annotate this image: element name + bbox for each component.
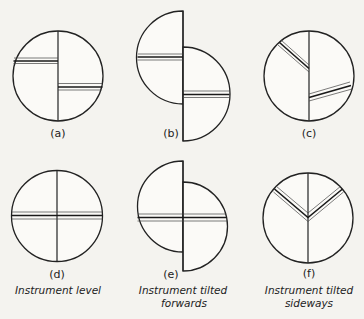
panel-label-f: (f) — [303, 267, 315, 280]
right-half-circle — [183, 182, 228, 271]
caption-instrument-level: Instrument level — [15, 284, 101, 296]
panel-d: (d) Instrument level — [12, 171, 103, 297]
caption-instrument-tilted-sideways-line2: sideways — [285, 297, 334, 309]
panel-f: (f) Instrument tilted sideways — [263, 173, 353, 309]
panel-b: (b) — [137, 11, 231, 141]
panel-label-d: (d) — [49, 268, 65, 281]
panel-c: (c) — [264, 31, 354, 140]
caption-instrument-tilted-forwards-line2: forwards — [161, 297, 207, 309]
panel-label-c: (c) — [302, 127, 317, 140]
left-half-circle — [138, 161, 184, 252]
caption-instrument-tilted-sideways-line1: Instrument tilted — [265, 284, 354, 296]
panel-a: (a) — [13, 31, 103, 140]
panel-label-a: (a) — [50, 127, 65, 140]
panel-label-b: (b) — [163, 127, 179, 140]
panel-label-e: (e) — [163, 268, 178, 281]
caption-instrument-tilted-forwards-line1: Instrument tilted — [139, 284, 228, 296]
panel-e: (e) Instrument tilted forwards — [138, 161, 228, 309]
level-bubble-diagram: (a) (b) (c) — [0, 0, 364, 319]
